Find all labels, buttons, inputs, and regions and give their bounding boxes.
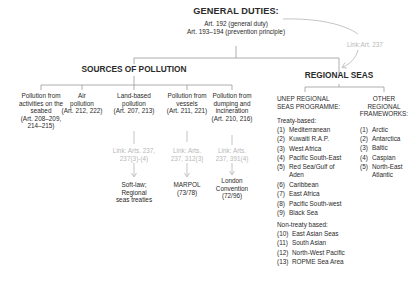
list-item: (3)West Africa <box>277 144 345 153</box>
general-duty-article: Art. 192 (general duty) <box>204 20 268 28</box>
source-land-based: Land-based pollution (Art. 207, 213) <box>114 92 155 115</box>
list-item: (6)Caribbean <box>277 180 345 189</box>
list-item: (13)ROPME Sea Area <box>277 257 345 266</box>
link-land-based: Link: Arts. 237, 237(3)-(4) <box>113 147 155 162</box>
list-item: (4)Pacific South-East <box>277 153 345 162</box>
other-frameworks-list: (1)Arctic (2)Antarctica (3)Baltic (4)Cas… <box>360 125 403 178</box>
source-air: Air pollution (Art. 212, 222) <box>62 92 103 115</box>
source-dumping: Pollution from dumping and incineration … <box>212 92 253 122</box>
list-item: (10)East Asian Seas <box>277 229 345 238</box>
non-treaty-label: Non-treaty based: <box>277 220 345 229</box>
list-item: (11)South Asian <box>277 238 345 247</box>
list-item: (3)Baltic <box>360 143 403 152</box>
list-item: (2)Antarctica <box>360 134 403 143</box>
list-item: (1)Arctic <box>360 125 403 134</box>
cross-link-label: Link:Art. 237 <box>347 41 383 49</box>
result-soft-law: Soft-law; Regional seas treaties <box>116 181 152 204</box>
list-item: (4)Caspian <box>360 153 403 162</box>
sources-of-pollution-title: SOURCES OF POLLUTION <box>81 66 186 74</box>
list-item: (2)Kuwaiti R.A.P. <box>277 134 345 143</box>
list-item: (5)North-East <box>360 162 403 171</box>
list-item: (12)North-West Pacific <box>277 248 345 257</box>
general-duties-title: GENERAL DUTIES: <box>193 8 279 16</box>
other-frameworks-heading: OTHER REGIONAL FRAMEWORKS: <box>360 95 408 118</box>
result-london-convention: London Convention (72/96) <box>216 177 248 200</box>
link-vessels: Link: Arts. 237, 312(3) <box>171 147 204 162</box>
link-dumping: Link: Arts. 237, 391(4) <box>216 147 249 162</box>
result-marpol: MARPOL (73/78) <box>174 181 201 196</box>
prevention-principle-article: Art. 193–194 (prevention principle) <box>187 28 285 36</box>
list-item: (1)Mediterranean <box>277 125 345 134</box>
source-vessels: Pollution from vessels (Art. 211, 221) <box>167 92 207 115</box>
list-item: (7)East Africa <box>277 189 345 198</box>
source-seabed: Pollution from activities on the seabed … <box>19 92 63 130</box>
regional-seas-title: REGIONAL SEAS <box>305 72 374 80</box>
list-item: (5)Red Sea/Gulf of <box>277 162 345 171</box>
unep-list: Treaty-based: (1)Mediterranean (2)Kuwait… <box>277 116 345 266</box>
list-item: (8)Pacific South-west <box>277 199 345 208</box>
list-item: (9)Black Sea <box>277 208 345 217</box>
treaty-based-label: Treaty-based: <box>277 116 345 125</box>
unep-heading: UNEP REGIONAL SEAS PROGRAMME: <box>277 95 340 110</box>
